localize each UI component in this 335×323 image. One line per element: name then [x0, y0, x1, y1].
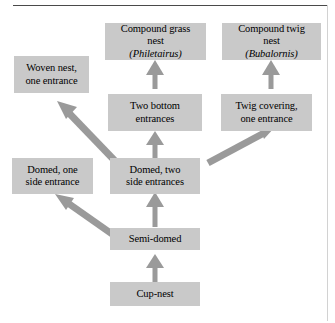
node-label-line1: Domed, one [26, 164, 80, 176]
node-label-line2: nest (Bubalornis) [238, 35, 305, 60]
node-twig-covering[interactable]: Twig covering, one entrance [221, 94, 312, 131]
arrow-cupnest-to-semidomed [146, 254, 164, 282]
node-label-line1: Two bottom [130, 100, 180, 112]
node-label-line1: Domed, two [126, 164, 184, 176]
arrow-semidomed-to-domedtwo [146, 192, 164, 227]
arrow-semidomed-to-domedone [55, 194, 112, 234]
node-domed-two-side-entrances[interactable]: Domed, two side entrances [110, 158, 200, 194]
node-cup-nest[interactable]: Cup-nest [110, 282, 200, 306]
node-label-line2: nest (Philetairus) [121, 35, 190, 60]
arrow-twigcovering-to-compoundtwig [262, 60, 280, 89]
node-label-line1: Semi-domed [129, 233, 182, 245]
node-label-line2: one entrance [25, 75, 77, 87]
node-label-prefix: nest [238, 35, 305, 47]
nest-evolution-diagram: Compound grass nest (Philetairus) Compou… [0, 0, 335, 323]
node-label-line1: Compound twig [238, 23, 305, 35]
node-compound-grass-nest[interactable]: Compound grass nest (Philetairus) [105, 23, 206, 60]
node-label-line2: side entrances [126, 176, 184, 188]
node-woven-nest[interactable]: Woven nest, one entrance [14, 56, 89, 93]
node-label-line1: Twig covering, [235, 100, 297, 112]
arrow-domedtwo-to-twobottom [146, 131, 164, 158]
node-label-line2: one entrance [235, 113, 297, 125]
node-semi-domed[interactable]: Semi-domed [110, 228, 200, 250]
node-label-line1: Woven nest, [25, 62, 77, 74]
node-label-line1: Cup-nest [136, 288, 173, 300]
node-label-line2: side entrance [26, 176, 80, 188]
node-label-line2: entrances [130, 113, 180, 125]
node-label-line1: Compound grass [121, 23, 190, 35]
node-two-bottom-entrances[interactable]: Two bottom entrances [108, 94, 202, 131]
arrow-twobottom-to-compoundgrass [146, 60, 164, 89]
node-domed-one-side-entrance[interactable]: Domed, one side entrance [12, 158, 93, 194]
node-label-genus: (Philetairus) [129, 48, 181, 59]
node-label-genus: (Bubalornis) [245, 48, 297, 59]
node-compound-twig-nest[interactable]: Compound twig nest (Bubalornis) [222, 23, 321, 60]
node-label-prefix: nest [121, 35, 190, 47]
